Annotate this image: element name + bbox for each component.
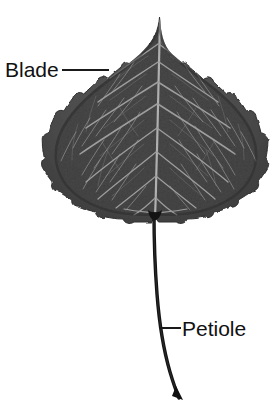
leaf-blade xyxy=(40,10,270,225)
blade-leader-line-icon xyxy=(62,69,109,71)
petiole-leader-line-icon xyxy=(160,327,181,329)
leaf-anatomy-figure: Blade Petiole xyxy=(0,0,275,406)
petiole-label: Petiole xyxy=(182,318,246,339)
blade-label: Blade xyxy=(5,59,59,80)
leaf-petiole xyxy=(148,210,183,400)
